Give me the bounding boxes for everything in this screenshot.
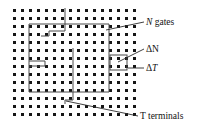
grid-dot	[53, 97, 56, 100]
grid-dot	[109, 17, 112, 20]
grid-dot	[69, 41, 72, 44]
grid-dot	[93, 17, 96, 20]
grid-dot	[53, 113, 56, 116]
grid-dot	[45, 25, 48, 28]
grid-dot	[29, 97, 32, 100]
grid-dot	[117, 89, 120, 92]
grid-dot	[117, 17, 120, 20]
grid-dot	[125, 33, 128, 36]
grid-dot	[101, 73, 104, 76]
grid-dot	[133, 105, 136, 108]
grid-dot	[133, 33, 136, 36]
grid-dot	[85, 9, 88, 12]
grid-dot	[69, 57, 72, 60]
grid-dot	[69, 105, 72, 108]
grid-dot	[37, 17, 40, 20]
grid-dot	[117, 113, 120, 116]
grid-dot	[45, 41, 48, 44]
grid-dot	[69, 33, 72, 36]
grid-dot	[133, 41, 136, 44]
grid-dot	[93, 57, 96, 60]
grid-dot	[93, 25, 96, 28]
label-t-terminals: T terminals	[140, 111, 184, 121]
grid-dot	[53, 105, 56, 108]
grid-dot	[21, 65, 24, 68]
grid-dot	[13, 9, 16, 12]
grid-dot	[109, 97, 112, 100]
grid-dot	[93, 97, 96, 100]
figure-container: N gates ΔN ΔT T terminals	[0, 0, 199, 131]
grid-dot	[77, 25, 80, 28]
grid-dot	[117, 57, 120, 60]
grid-dot	[45, 9, 48, 12]
label-t-terminals-text: terminals	[146, 111, 184, 121]
grid-dot	[117, 9, 120, 12]
grid-dot	[45, 105, 48, 108]
grid-dot	[117, 33, 120, 36]
grid-dot	[77, 97, 80, 100]
grid-dot	[93, 81, 96, 84]
grid-dot	[101, 105, 104, 108]
grid-dot	[77, 65, 80, 68]
grid-dot	[37, 113, 40, 116]
grid-dot	[101, 41, 104, 44]
grid-dot	[85, 41, 88, 44]
grid-dot	[45, 17, 48, 20]
grid-dot	[45, 81, 48, 84]
grid-dot	[45, 113, 48, 116]
grid-dot	[77, 73, 80, 76]
grid-dot	[85, 65, 88, 68]
grid-dot	[21, 49, 24, 52]
grid-dot	[13, 17, 16, 20]
grid-dot	[53, 33, 56, 36]
grid-dot	[69, 113, 72, 116]
grid-dot	[21, 41, 24, 44]
grid-dot	[77, 41, 80, 44]
grid-dot	[77, 113, 80, 116]
grid-dot	[37, 9, 40, 12]
grid-dot	[125, 105, 128, 108]
grid-dot	[93, 33, 96, 36]
grid-dot	[133, 25, 136, 28]
grid-dot	[29, 113, 32, 116]
dot-grid	[13, 9, 136, 116]
grid-dot	[37, 73, 40, 76]
grid-dot	[61, 65, 64, 68]
grid-dot	[53, 57, 56, 60]
grid-dot	[69, 73, 72, 76]
grid-dot	[133, 17, 136, 20]
grid-dot	[21, 113, 24, 116]
grid-dot	[37, 105, 40, 108]
grid-dot	[21, 17, 24, 20]
grid-dot	[53, 65, 56, 68]
grid-dot	[13, 57, 16, 60]
grid-dot	[61, 25, 64, 28]
grid-dot	[93, 41, 96, 44]
grid-dot	[77, 17, 80, 20]
grid-dot	[85, 57, 88, 60]
grid-dot	[125, 41, 128, 44]
label-delta-n: ΔN	[146, 44, 159, 54]
grid-dot	[29, 9, 32, 12]
grid-dot	[61, 113, 64, 116]
grid-dot	[13, 113, 16, 116]
grid-dot	[53, 81, 56, 84]
grid-dot	[133, 9, 136, 12]
grid-dot	[93, 73, 96, 76]
grid-dot	[93, 113, 96, 116]
labels: N gates ΔN ΔT T terminals	[140, 17, 184, 121]
grid-dot	[61, 33, 64, 36]
grid-dot	[85, 73, 88, 76]
grid-dot	[101, 113, 104, 116]
grid-dot	[101, 25, 104, 28]
label-n-gates: N gates	[145, 17, 175, 27]
grid-dot	[77, 9, 80, 12]
grid-dot	[37, 81, 40, 84]
grid-dot	[125, 89, 128, 92]
grid-dot	[77, 57, 80, 60]
grid-dot	[125, 97, 128, 100]
grid-dot	[69, 49, 72, 52]
grid-dot	[21, 81, 24, 84]
grid-dot	[85, 49, 88, 52]
label-delta-t-symbol: T	[152, 63, 158, 73]
